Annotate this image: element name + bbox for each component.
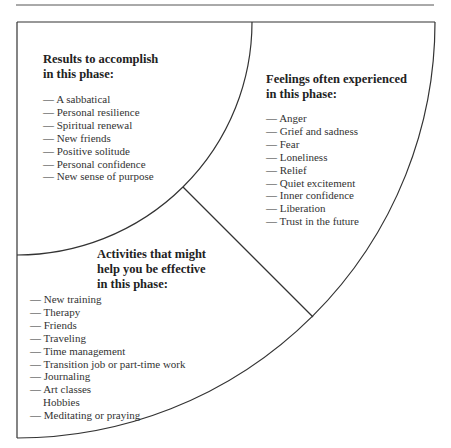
activities-heading-line2: help you be effective bbox=[97, 262, 206, 277]
list-item: — Traveling bbox=[30, 332, 186, 345]
activities-section: — New training — Therapy — Friends — Tra… bbox=[30, 293, 186, 422]
list-item: — Inner confidence bbox=[266, 189, 407, 202]
list-item: — Grief and sadness bbox=[266, 125, 407, 138]
results-list: — A sabbatical — Personal resilience — S… bbox=[43, 93, 158, 183]
activities-heading: Activities that might help you be effect… bbox=[97, 247, 206, 292]
list-item: — Loneliness bbox=[266, 151, 407, 164]
activities-list: — New training — Therapy — Friends — Tra… bbox=[30, 293, 186, 422]
list-item: — Liberation bbox=[266, 202, 407, 215]
list-item: — Trust in the future bbox=[266, 215, 407, 228]
list-item: — Therapy bbox=[30, 306, 186, 319]
list-item: — A sabbatical bbox=[43, 93, 158, 106]
list-item: — Friends bbox=[30, 319, 186, 332]
feelings-heading-line1: Feelings often experienced bbox=[266, 72, 407, 87]
activities-heading-line1: Activities that might bbox=[97, 247, 206, 262]
list-item: — Meditating or praying bbox=[30, 409, 186, 422]
list-item: — Fear bbox=[266, 138, 407, 151]
list-item: — New training bbox=[30, 293, 186, 306]
activities-heading-line3: in this phase: bbox=[97, 277, 206, 292]
list-item: — Journaling bbox=[30, 370, 186, 383]
list-item: Hobbies bbox=[30, 396, 186, 409]
results-heading-line2: in this phase: bbox=[43, 67, 158, 82]
feelings-section: Feelings often experienced in this phase… bbox=[266, 72, 407, 228]
list-item: — Transition job or part-time work bbox=[30, 358, 186, 371]
activities-heading-block: Activities that might help you be effect… bbox=[97, 247, 206, 292]
results-heading-line1: Results to accomplish bbox=[43, 52, 158, 67]
list-item: — Relief bbox=[266, 164, 407, 177]
list-item: — Positive solitude bbox=[43, 145, 158, 158]
list-item: — Time management bbox=[30, 345, 186, 358]
list-item: — New friends bbox=[43, 132, 158, 145]
list-item: — Anger bbox=[266, 112, 407, 125]
list-item: — Art classes bbox=[30, 383, 186, 396]
feelings-list: — Anger — Grief and sadness — Fear — Lon… bbox=[266, 112, 407, 228]
list-item: — Personal resilience bbox=[43, 106, 158, 119]
list-item: — New sense of purpose bbox=[43, 170, 158, 183]
results-section: Results to accomplish in this phase: — A… bbox=[43, 52, 158, 183]
results-heading: Results to accomplish in this phase: bbox=[43, 52, 158, 82]
feelings-heading: Feelings often experienced in this phase… bbox=[266, 72, 407, 102]
list-item: — Quiet excitement bbox=[266, 177, 407, 190]
list-item: — Personal confidence bbox=[43, 158, 158, 171]
list-item: — Spiritual renewal bbox=[43, 119, 158, 132]
feelings-heading-line2: in this phase: bbox=[266, 87, 407, 102]
